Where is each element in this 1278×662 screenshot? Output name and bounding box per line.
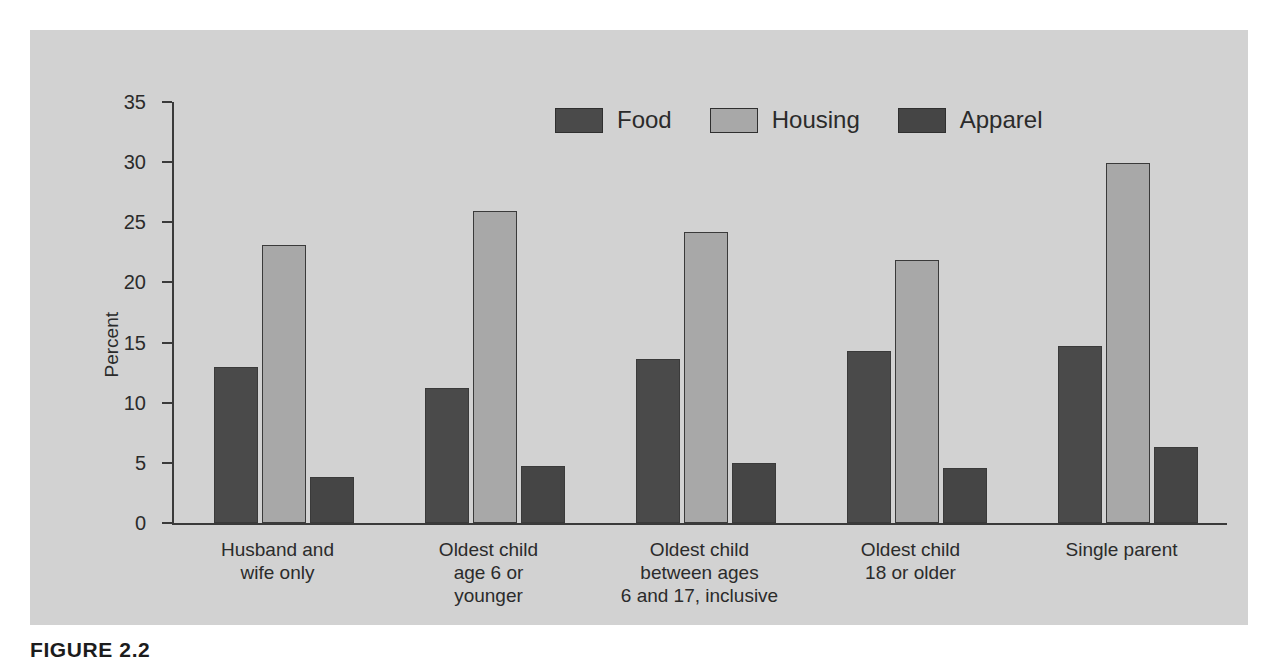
plot-area: 05101520253035 Percent <box>172 102 1227 525</box>
y-tick-30: 30 <box>162 161 172 163</box>
bar-chart: Food Housing Apparel 05101520253035 Perc… <box>140 70 1230 535</box>
x-axis-line <box>172 523 1227 525</box>
x-axis-label-line: 18 or older <box>785 561 1036 584</box>
x-axis-label-line: Single parent <box>996 538 1247 561</box>
bar-food-4 <box>1058 346 1102 523</box>
bar-group <box>1058 102 1198 523</box>
y-tick-label-20: 20 <box>124 271 146 294</box>
y-tick-label-35: 35 <box>124 91 146 114</box>
bar-apparel-3 <box>943 468 987 523</box>
bar-food-2 <box>636 359 680 523</box>
bar-housing-2 <box>684 232 728 523</box>
bar-group <box>847 102 987 523</box>
bar-food-1 <box>425 388 469 523</box>
bar-housing-4 <box>1106 163 1150 523</box>
y-tick-35: 35 <box>162 101 172 103</box>
y-tick-label-0: 0 <box>135 512 146 535</box>
bar-housing-1 <box>473 211 517 523</box>
y-tick-label-10: 10 <box>124 391 146 414</box>
x-axis-labels: Husband andwife onlyOldest childage 6 or… <box>172 538 1262 618</box>
x-axis-label-line: 6 and 17, inclusive <box>574 584 825 607</box>
y-tick-label-15: 15 <box>124 331 146 354</box>
y-tick-0: 0 <box>162 522 172 524</box>
bar-apparel-2 <box>732 463 776 523</box>
figure-panel: Food Housing Apparel 05101520253035 Perc… <box>30 30 1248 625</box>
bar-food-0 <box>214 367 258 523</box>
bar-series-container <box>172 102 1227 523</box>
y-tick-10: 10 <box>162 402 172 404</box>
bar-housing-3 <box>895 260 939 523</box>
y-tick-5: 5 <box>162 462 172 464</box>
y-tick-20: 20 <box>162 281 172 283</box>
bar-housing-0 <box>262 245 306 523</box>
y-tick-label-25: 25 <box>124 211 146 234</box>
bar-apparel-1 <box>521 466 565 523</box>
y-tick-25: 25 <box>162 221 172 223</box>
y-tick-15: 15 <box>162 342 172 344</box>
bar-apparel-0 <box>310 477 354 523</box>
bar-apparel-4 <box>1154 447 1198 523</box>
figure-caption: FIGURE 2.2 <box>30 638 150 662</box>
bar-group <box>425 102 565 523</box>
y-tick-label-30: 30 <box>124 151 146 174</box>
x-axis-label-4: Single parent <box>996 538 1247 561</box>
bar-group <box>214 102 354 523</box>
bar-food-3 <box>847 351 891 523</box>
y-tick-label-5: 5 <box>135 451 146 474</box>
bar-group <box>636 102 776 523</box>
y-axis-title: Percent <box>101 312 123 377</box>
